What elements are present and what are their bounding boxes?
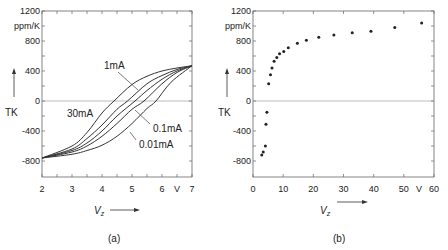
data-point <box>305 39 308 42</box>
y-tick-label: 800 <box>236 36 251 46</box>
x-tick-label: 10 <box>278 184 288 194</box>
data-point <box>271 67 274 70</box>
x-tick-label: 3 <box>69 184 74 194</box>
x-tick-label: 30 <box>338 184 348 194</box>
data-point <box>278 52 281 55</box>
plot-frame-b <box>253 11 434 177</box>
data-point <box>332 34 335 37</box>
panel-a: 1200ppm/K8004000-400-80023456V7 1mA 30mA… <box>5 6 195 244</box>
x-tick-label: 4 <box>99 184 104 194</box>
x-tick-label: 0 <box>250 184 255 194</box>
chart-canvas: 1200ppm/K8004000-400-80023456V7 1mA 30mA… <box>0 0 448 250</box>
panel-b: 1200ppm/K8004000-400-80001020304050V60 T… <box>218 6 439 244</box>
x-tick-label: 2 <box>39 184 44 194</box>
data-point <box>267 82 270 85</box>
data-point <box>351 31 354 34</box>
label-1mA: 1mA <box>104 60 125 71</box>
x-arrow-head-a <box>134 208 140 212</box>
xlabel-a: Vz <box>94 205 105 217</box>
data-point <box>260 154 263 157</box>
y-tick-label: -400 <box>22 126 40 136</box>
x-tick-label: V <box>416 184 422 194</box>
y-tick-label: -800 <box>233 156 251 166</box>
x-tick-label: 6 <box>159 184 164 194</box>
data-point <box>317 36 320 39</box>
data-point <box>282 50 285 53</box>
tick-labels-a: 1200ppm/K8004000-400-80023456V7 <box>14 6 195 194</box>
data-point <box>296 42 299 45</box>
tick-labels-b: 1200ppm/K8004000-400-80001020304050V60 <box>225 6 439 194</box>
data-point <box>393 26 396 29</box>
data-point <box>369 30 372 33</box>
panel-label-a: (a) <box>108 233 120 244</box>
y-tick-label: 400 <box>25 66 40 76</box>
data-point <box>262 151 265 154</box>
leader-0.1mA <box>135 110 150 124</box>
scatter-points-b <box>260 22 423 157</box>
y-tick-label: 1200 <box>20 6 40 16</box>
x-tick-label: V <box>174 184 180 194</box>
y-tick-label: 800 <box>25 36 40 46</box>
data-point <box>264 145 267 148</box>
y-arrow-head-b <box>225 68 229 74</box>
xlabel-b: Vz <box>320 205 331 217</box>
x-tick-label: 20 <box>308 184 318 194</box>
y-tick-label: 400 <box>236 66 251 76</box>
label-0.1mA: 0.1mA <box>153 123 182 134</box>
data-point <box>265 111 268 114</box>
x-tick-label: 60 <box>429 184 439 194</box>
label-30mA: 30mA <box>67 108 93 119</box>
x-arrow-head-b <box>362 200 368 204</box>
data-point <box>275 56 278 59</box>
y-tick-label: 0 <box>35 96 40 106</box>
y-tick-label: 1200 <box>231 6 251 16</box>
y-tick-label: -400 <box>233 126 251 136</box>
data-point <box>269 73 272 76</box>
data-point <box>287 46 290 49</box>
label-0.01mA: 0.01mA <box>139 139 174 150</box>
ylabel-b: TK <box>218 107 231 118</box>
data-point <box>264 123 267 126</box>
y-tick-label: ppm/K <box>14 21 40 31</box>
x-tick-label: 40 <box>369 184 379 194</box>
panel-label-b: (b) <box>333 233 345 244</box>
y-arrow-head-a <box>12 68 16 74</box>
leader-0.01mA <box>130 132 136 140</box>
y-tick-label: ppm/K <box>225 21 251 31</box>
ticks-b <box>253 11 434 177</box>
y-tick-label: 0 <box>246 96 251 106</box>
data-point <box>273 60 276 63</box>
x-tick-label: 5 <box>129 184 134 194</box>
data-point <box>420 22 423 25</box>
x-tick-label: 7 <box>189 184 194 194</box>
y-tick-label: -800 <box>22 156 40 166</box>
x-tick-label: 50 <box>399 184 409 194</box>
ylabel-a: TK <box>5 107 18 118</box>
